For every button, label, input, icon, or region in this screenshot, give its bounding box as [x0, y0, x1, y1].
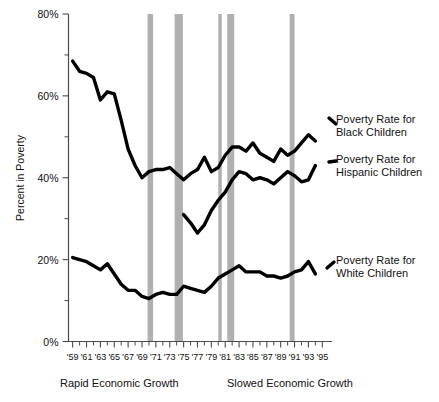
x-tick-label: '89 — [275, 352, 287, 362]
annotation-slowed-growth: Slowed Economic Growth — [227, 377, 353, 389]
series-leader-white — [327, 262, 334, 268]
x-tick-label: '75 — [178, 352, 190, 362]
x-tick-label: '59 — [67, 352, 79, 362]
y-tick-label: 60% — [37, 90, 58, 102]
y-tick-label: 40% — [37, 172, 58, 184]
data-series-group — [73, 61, 336, 298]
x-tick-label: '87 — [261, 352, 273, 362]
x-tick-label: '79 — [205, 352, 217, 362]
x-tick-label: '85 — [247, 352, 259, 362]
series-label-black: Poverty Rate for Black Children — [336, 113, 416, 138]
chart-canvas: 0%20%40%60%80% '59'61'63'65'67'69'71'73'… — [0, 0, 439, 402]
y-tick-label: 80% — [37, 8, 58, 20]
x-axis: '59'61'63'65'67'69'71'73'75'77'79'81'83'… — [67, 342, 332, 362]
series-label-hispanic-line2: Hispanic Children — [336, 166, 422, 178]
x-tick-group: '59'61'63'65'67'69'71'73'75'77'79'81'83'… — [67, 342, 328, 362]
series-label-white-line1: Poverty Rate for — [336, 254, 416, 266]
series-leader-black — [329, 118, 336, 124]
x-tick-label: '93 — [303, 352, 315, 362]
x-tick-label: '83 — [233, 352, 245, 362]
y-axis-title: Percent in Poverty — [14, 134, 26, 221]
x-tick-label: '95 — [316, 352, 328, 362]
x-tick-label: '69 — [136, 352, 148, 362]
x-tick-label: '61 — [81, 352, 93, 362]
series-label-white: Poverty Rate for White Children — [336, 254, 416, 279]
x-tick-label: '65 — [108, 352, 120, 362]
y-tick-group: 0%20%40%60%80% — [37, 8, 68, 348]
series-leader-hispanic — [329, 161, 336, 162]
series-label-hispanic: Poverty Rate for Hispanic Children — [336, 153, 422, 178]
series-label-black-line2: Black Children — [336, 126, 407, 138]
series-label-hispanic-line1: Poverty Rate for — [336, 153, 416, 165]
x-tick-label: '73 — [164, 352, 176, 362]
data-line-white — [73, 258, 316, 299]
x-tick-label: '91 — [289, 352, 301, 362]
recession-bands-group — [148, 14, 295, 342]
x-tick-label: '63 — [95, 352, 107, 362]
series-label-black-line1: Poverty Rate for — [336, 113, 416, 125]
recession-band — [218, 14, 222, 342]
y-axis: 0%20%40%60%80% — [37, 8, 68, 348]
series-label-white-line2: White Children — [336, 267, 408, 279]
x-tick-label: '81 — [219, 352, 231, 362]
x-tick-label: '71 — [150, 352, 162, 362]
x-tick-label: '77 — [192, 352, 204, 362]
data-line-black — [73, 61, 316, 180]
data-line-hispanic — [184, 165, 316, 233]
y-tick-label: 20% — [37, 254, 58, 266]
x-tick-label: '67 — [122, 352, 134, 362]
y-tick-label: 0% — [43, 336, 58, 348]
poverty-rate-chart: 0%20%40%60%80% '59'61'63'65'67'69'71'73'… — [0, 0, 439, 402]
recession-band — [290, 14, 295, 342]
recession-band — [148, 14, 154, 342]
annotation-rapid-growth: Rapid Economic Growth — [60, 377, 179, 389]
